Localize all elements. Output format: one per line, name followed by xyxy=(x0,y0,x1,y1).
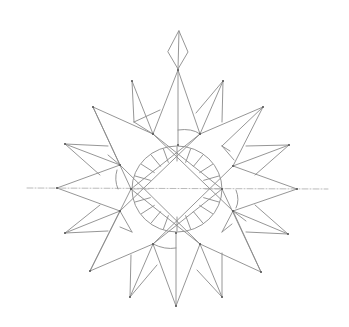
star-line xyxy=(131,134,200,189)
vertex-dot xyxy=(131,80,133,82)
star-line xyxy=(131,189,200,244)
star-compass-svg xyxy=(0,0,349,327)
star-line xyxy=(222,189,261,272)
star-line xyxy=(65,205,100,233)
vertex-dot xyxy=(199,133,201,135)
vertex-dot xyxy=(221,188,223,190)
vertex-dot xyxy=(232,210,234,212)
arc-segment xyxy=(178,130,200,135)
vertex-dot xyxy=(296,188,298,190)
star-line xyxy=(153,166,233,244)
star-line xyxy=(65,144,108,146)
vertex-dot xyxy=(152,243,154,245)
star-line xyxy=(222,224,232,232)
vertex-dot xyxy=(222,80,224,82)
star-line xyxy=(222,107,263,146)
vertex-dot xyxy=(129,296,131,298)
vertex-dot xyxy=(288,144,290,146)
star-line xyxy=(57,165,120,188)
vertex-dot xyxy=(89,270,91,272)
tick-mark xyxy=(200,164,213,172)
star-line xyxy=(93,107,131,189)
star-line xyxy=(200,107,263,134)
tick-mark xyxy=(141,205,154,213)
star-line xyxy=(233,166,297,189)
vertex-dot xyxy=(130,188,132,190)
star-line xyxy=(65,211,120,233)
star-line xyxy=(222,146,234,160)
vertex-dot xyxy=(221,296,223,298)
horizontal-axis-line xyxy=(27,188,328,189)
star-line xyxy=(120,134,200,211)
star-line xyxy=(255,145,289,175)
vertex-dot xyxy=(177,144,179,146)
vertex-dot xyxy=(119,210,121,212)
star-line xyxy=(65,144,100,175)
vertex-dot xyxy=(92,106,94,108)
vertex-dot xyxy=(199,243,201,245)
star-line xyxy=(65,231,108,233)
radial-ticks xyxy=(133,147,221,231)
vertex-dot xyxy=(152,133,154,135)
star-line xyxy=(197,270,222,297)
vertex-dot xyxy=(262,106,264,108)
vertex-dot xyxy=(177,69,179,71)
vertex-dot xyxy=(64,143,66,145)
star-line xyxy=(176,244,200,306)
vertex-dot xyxy=(287,233,289,235)
tick-mark xyxy=(151,155,160,166)
star-line xyxy=(90,189,131,271)
vertex-dot xyxy=(64,232,66,234)
tick-mark xyxy=(200,205,213,213)
star-line xyxy=(130,265,157,297)
star-line xyxy=(255,205,288,234)
vertex-dot xyxy=(260,271,262,273)
star-line xyxy=(132,81,134,122)
vertex-dot xyxy=(175,232,177,234)
star-line xyxy=(233,145,289,166)
tick-mark xyxy=(151,212,160,223)
vertex-dot xyxy=(232,165,234,167)
star-line xyxy=(200,244,222,297)
star-line xyxy=(130,255,131,297)
star-line xyxy=(233,189,297,211)
arc-segment xyxy=(236,190,238,208)
vertex-dots xyxy=(56,69,298,307)
star-line xyxy=(178,70,200,134)
star-line xyxy=(120,211,132,232)
vertex-dot xyxy=(175,305,177,307)
star-line xyxy=(246,232,288,234)
star-line xyxy=(222,81,223,122)
star-line xyxy=(222,211,233,232)
tick-mark xyxy=(193,212,202,223)
diamond-finial-icon xyxy=(168,31,188,69)
star-line xyxy=(153,134,233,211)
diamond-axis xyxy=(178,31,179,69)
axis-line xyxy=(27,188,328,189)
star-line xyxy=(153,70,178,134)
star-line xyxy=(90,244,153,271)
star-line xyxy=(196,81,223,113)
star-compass-drawing xyxy=(0,0,349,327)
star-line xyxy=(233,107,263,166)
star-line xyxy=(153,244,176,306)
tick-mark xyxy=(193,155,202,166)
tick-mark xyxy=(141,164,154,172)
star-line xyxy=(57,188,120,211)
vertex-dot xyxy=(56,187,58,189)
star-line xyxy=(200,244,261,272)
star-line xyxy=(246,145,289,146)
arc-segment xyxy=(116,170,118,189)
star-line xyxy=(134,110,160,122)
arc-segment xyxy=(153,244,176,249)
star-line xyxy=(108,155,120,165)
vertex-dot xyxy=(119,164,121,166)
